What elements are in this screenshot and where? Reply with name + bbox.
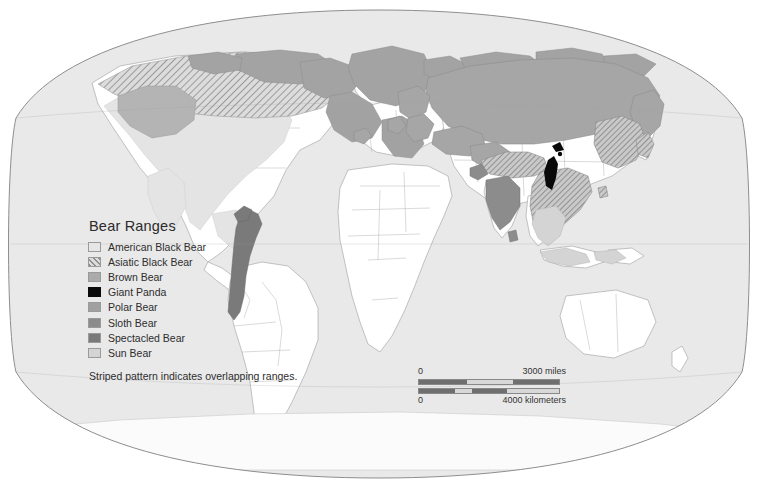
legend-label-spectacled-bear: Spectacled Bear: [108, 332, 185, 344]
scale-track-kilometers: [418, 388, 560, 394]
legend-swatch-spectacled-bear: [88, 333, 101, 343]
legend-item-asiatic-black-bear[interactable]: Asiatic Black Bear: [88, 254, 328, 269]
legend-note: Striped pattern indicates overlapping ra…: [89, 370, 328, 382]
scale-kilometers-labels: 0 4000 kilometers: [418, 395, 566, 407]
legend-item-giant-panda[interactable]: Giant Panda: [88, 285, 328, 300]
legend-label-sloth-bear: Sloth Bear: [108, 317, 157, 329]
legend-label-american-black-bear: American Black Bear: [108, 241, 206, 253]
scale-miles-max: 3000 miles: [522, 366, 566, 376]
legend-swatch-brown-bear: [88, 272, 101, 282]
legend-title: Bear Ranges: [89, 218, 328, 234]
scale-bar: 0 3000 miles 0 4000 kilometers: [418, 366, 566, 407]
bear-ranges-map-screen: Bear Ranges American Black Bear Asiatic …: [0, 0, 758, 487]
legend-swatch-polar-bear: [88, 302, 101, 312]
legend-item-polar-bear[interactable]: Polar Bear: [88, 300, 328, 315]
legend-swatch-sloth-bear: [88, 318, 101, 328]
legend-item-spectacled-bear[interactable]: Spectacled Bear: [88, 330, 328, 345]
legend-label-brown-bear: Brown Bear: [108, 271, 163, 283]
legend-swatch-asiatic-black-bear: [88, 257, 101, 267]
legend-label-asiatic-black-bear: Asiatic Black Bear: [108, 256, 193, 268]
legend-swatch-sun-bear: [88, 348, 101, 358]
legend-item-sloth-bear[interactable]: Sloth Bear: [88, 315, 328, 330]
scale-track-miles: [418, 379, 560, 385]
scale-km-zero: 0: [418, 395, 423, 405]
legend-label-giant-panda: Giant Panda: [108, 286, 166, 298]
legend-item-sun-bear[interactable]: Sun Bear: [88, 345, 328, 360]
legend-label-polar-bear: Polar Bear: [108, 301, 158, 313]
legend-swatch-giant-panda: [88, 287, 101, 297]
scale-miles-zero: 0: [418, 366, 423, 376]
legend-item-brown-bear[interactable]: Brown Bear: [88, 269, 328, 284]
scale-km-max: 4000 kilometers: [502, 395, 566, 405]
legend-swatch-american-black-bear: [88, 242, 101, 252]
legend: Bear Ranges American Black Bear Asiatic …: [88, 218, 328, 382]
legend-label-sun-bear: Sun Bear: [108, 347, 152, 359]
legend-item-american-black-bear[interactable]: American Black Bear: [88, 239, 328, 254]
scale-miles-labels: 0 3000 miles: [418, 366, 566, 378]
